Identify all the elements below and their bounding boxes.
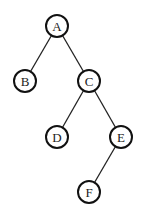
tree-node-c: C xyxy=(78,70,100,92)
node-label: E xyxy=(117,130,125,145)
tree-node-d: D xyxy=(46,126,68,148)
edge-e-f xyxy=(95,147,116,183)
edge-a-c xyxy=(63,36,84,72)
edge-c-d xyxy=(62,91,83,128)
tree-node-a: A xyxy=(46,15,68,37)
node-label: F xyxy=(85,185,92,200)
node-label: B xyxy=(21,74,30,89)
node-label: D xyxy=(52,130,61,145)
edge-c-e xyxy=(94,91,115,128)
tree-node-e: E xyxy=(110,126,132,148)
edge-a-b xyxy=(31,36,52,72)
node-label: A xyxy=(52,19,62,34)
tree-node-f: F xyxy=(78,181,100,203)
node-label: C xyxy=(85,74,94,89)
tree-edges xyxy=(31,36,116,183)
tree-diagram: ABCDEF xyxy=(0,0,144,214)
tree-node-b: B xyxy=(14,70,36,92)
